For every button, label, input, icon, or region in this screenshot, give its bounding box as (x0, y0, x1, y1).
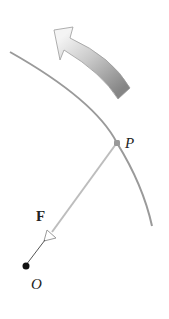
diagram-canvas: P F O (0, 0, 169, 319)
origin-dot (23, 263, 30, 270)
point-p-dot (114, 140, 120, 146)
label-origin: O (31, 276, 42, 292)
force-arrowhead-icon (44, 230, 56, 241)
force-line (52, 144, 116, 232)
origin-connector-line (26, 240, 45, 265)
label-point-p: P (124, 135, 134, 151)
label-force: F (36, 208, 45, 224)
